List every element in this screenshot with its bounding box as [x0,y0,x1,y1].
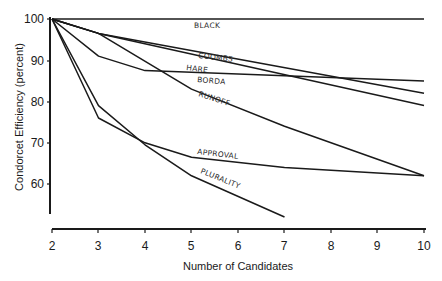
line-hare [52,19,424,106]
y-tick-70: 70 [31,136,45,150]
line-borda [52,19,424,81]
x-tick-7: 7 [281,239,288,253]
x-tick-5: 5 [188,239,195,253]
x-tick-4: 4 [142,239,149,253]
x-tick-2: 2 [49,239,56,253]
y-tick-100: 100 [24,12,44,26]
y-tick-labels: 100 90 80 70 60 [24,12,44,191]
y-tick-90: 90 [31,54,45,68]
x-tick-labels: 2 3 4 5 6 7 8 9 10 [49,239,431,253]
x-tick-3: 3 [95,239,102,253]
label-plurality: PLURALITY [199,167,242,191]
label-coombs: COOMBS [198,51,234,64]
line-coombs [52,19,424,93]
x-tick-6: 6 [235,239,242,253]
x-tick-8: 8 [328,239,335,253]
label-black: BLACK [194,21,221,30]
x-tick-10: 10 [417,239,431,253]
y-axis-title: Condorcet Efficiency (percent) [13,43,25,191]
y-tick-80: 80 [31,95,45,109]
y-tick-60: 60 [31,177,45,191]
label-runoff: RUNOFF [197,89,231,108]
x-axis-title: Number of Candidates [183,260,294,272]
label-borda: BORDA [197,75,227,86]
x-tick-9: 9 [374,239,381,253]
condorcet-efficiency-chart: 100 90 80 70 60 Condorcet Efficiency (pe… [0,0,442,281]
